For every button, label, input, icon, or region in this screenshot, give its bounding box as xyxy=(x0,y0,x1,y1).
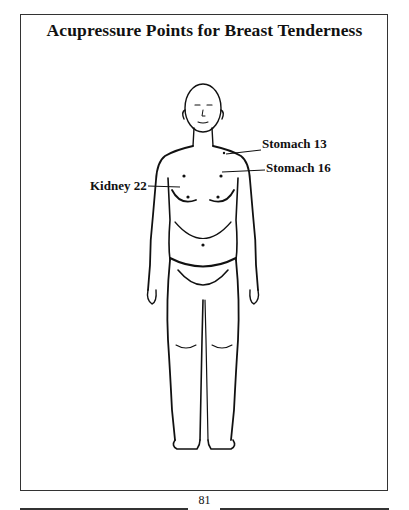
page-number: 81 xyxy=(0,493,409,508)
footer-rule-right xyxy=(220,508,389,510)
label-stomach-16: Stomach 16 xyxy=(266,160,331,176)
label-kidney-22: Kidney 22 xyxy=(90,178,147,194)
footer-rule-left xyxy=(20,508,188,510)
body-illustration xyxy=(0,0,409,510)
label-stomach-13: Stomach 13 xyxy=(262,136,327,152)
